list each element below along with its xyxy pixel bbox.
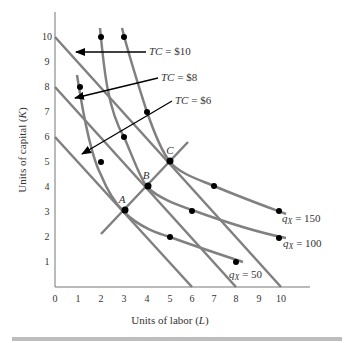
data-point	[121, 34, 127, 40]
y-tick: 7	[45, 106, 50, 117]
point-b	[145, 183, 152, 190]
y-tick: 1	[45, 256, 50, 267]
x-tick: 7	[212, 293, 217, 304]
tangency-points: A B C	[118, 144, 175, 214]
y-tick: 10	[42, 31, 52, 42]
data-point	[98, 159, 104, 165]
data-point	[211, 183, 217, 189]
y-tick: 6	[45, 131, 50, 142]
x-tick: 6	[190, 293, 195, 304]
x-tick: 9	[257, 293, 262, 304]
y-tick: 8	[45, 81, 50, 92]
point-c	[167, 158, 174, 165]
bottom-rule	[12, 337, 342, 341]
data-point	[121, 134, 127, 140]
label-q50: qX = 50	[229, 268, 263, 282]
data-point	[98, 34, 104, 40]
x-tick: 8	[234, 293, 239, 304]
label-tc10: TC = $10	[149, 45, 191, 57]
x-axis-title: Units of labor (L)	[131, 314, 209, 327]
point-c-label: C	[166, 144, 174, 156]
x-tick: 3	[122, 293, 127, 304]
x-tick: 1	[76, 293, 81, 304]
point-b-label: B	[143, 169, 150, 181]
x-tick: 4	[145, 293, 150, 304]
data-point	[276, 235, 282, 241]
x-tick: 5	[168, 293, 173, 304]
data-point	[77, 84, 83, 90]
x-tick: 2	[99, 293, 104, 304]
y-tick: 5	[45, 156, 50, 167]
label-tc6: TC = $6	[175, 94, 212, 106]
y-tick: 4	[45, 181, 50, 192]
isoquant-isocost-chart: 0 1 2 3 4 5 6 7 8 9 10 1 2 3 4 5 6 7 8 9…	[0, 0, 354, 343]
x-tick-labels: 0 1 2 3 4 5 6 7 8 9 10	[53, 293, 287, 304]
y-axis-title: Units of capital (K)	[16, 107, 29, 193]
data-point	[167, 234, 173, 240]
point-a	[122, 207, 129, 214]
label-q150: qX = 150	[282, 212, 321, 226]
y-tick: 3	[45, 206, 50, 217]
y-tick-labels: 1 2 3 4 5 6 7 8 9 10	[42, 31, 52, 267]
x-tick: 10	[276, 293, 286, 304]
data-point	[189, 208, 195, 214]
data-point	[233, 259, 239, 265]
arrow-tc8	[75, 78, 158, 98]
label-tc8: TC = $8	[161, 71, 198, 83]
y-tick: 2	[45, 231, 50, 242]
y-tick: 9	[45, 56, 50, 67]
x-tick: 0	[53, 293, 58, 304]
point-a-label: A	[118, 193, 126, 205]
label-q100: qX = 100	[283, 237, 322, 251]
